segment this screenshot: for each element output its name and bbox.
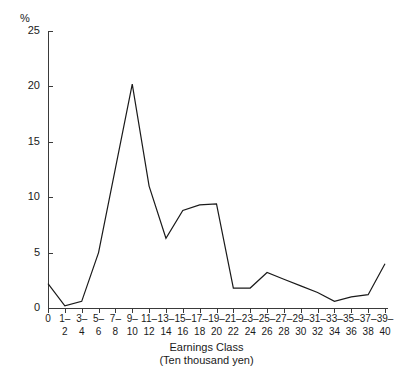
earnings-class-distribution-chart: % 0510152025 01–23–45–67–89–1011–1213–14… (0, 0, 413, 374)
x-axis-title: Earnings Class (0, 341, 413, 353)
plot-area (0, 0, 413, 374)
x-axis-subtitle: (Ten thousand yen) (0, 354, 413, 366)
data-series-line (48, 84, 385, 306)
